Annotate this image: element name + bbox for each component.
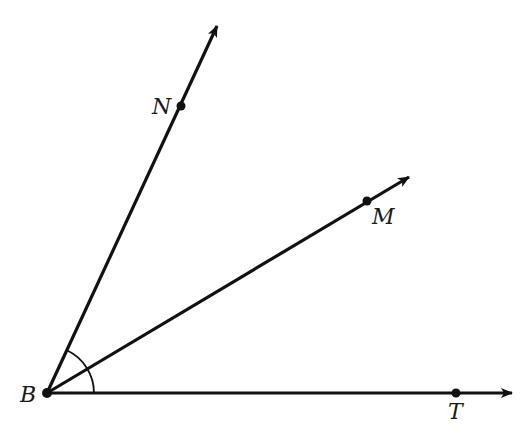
label-t: T — [448, 399, 465, 424]
label-m: M — [371, 204, 395, 229]
point-n — [177, 102, 186, 111]
angle-diagram: B N M T — [0, 0, 532, 434]
point-m — [363, 197, 372, 206]
label-b: B — [19, 382, 36, 407]
label-n: N — [151, 94, 172, 119]
ray-bn — [47, 26, 217, 393]
ray-bm — [47, 177, 409, 393]
point-t — [452, 389, 461, 398]
vertex-point-b — [42, 388, 52, 398]
diagram-canvas: B N M T — [0, 0, 532, 434]
